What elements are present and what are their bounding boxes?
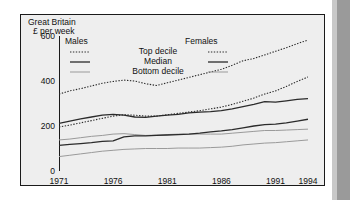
- x-axis-tick-label: 1976: [98, 176, 128, 186]
- legend-key-females: [207, 67, 229, 76]
- y-axis-tick-label: 400: [29, 76, 55, 86]
- right-edge-band: [337, 0, 350, 200]
- y-axis-tick-label: 0: [29, 166, 55, 176]
- x-axis-tick-label: 1986: [206, 176, 236, 186]
- x-axis-tick-label: 1994: [293, 176, 323, 186]
- legend-group-females: Females: [185, 36, 218, 46]
- legend-group-males: Males: [65, 36, 88, 46]
- y-axis-tick-label: 600: [29, 31, 55, 41]
- x-axis-tick-label: 1991: [261, 176, 291, 186]
- legend-key-males: [69, 67, 91, 76]
- x-axis-tick-label: 1971: [44, 176, 74, 186]
- legend-label: Median: [115, 56, 201, 66]
- legend-key-males: [69, 57, 91, 66]
- legend-key-males: [69, 47, 91, 56]
- chart-figure: Great Britain £ per week 0200400600 1971…: [20, 14, 325, 186]
- legend-label: Top decile: [115, 46, 201, 56]
- legend-key-females: [207, 47, 229, 56]
- screenshot-root: Great Britain £ per week 0200400600 1971…: [0, 0, 350, 200]
- legend-key-females: [207, 57, 229, 66]
- legend-row: Bottom decile: [63, 67, 253, 77]
- x-axis-tick-label: 1981: [152, 176, 182, 186]
- series-line: [59, 119, 308, 145]
- y-axis-tick-label: 200: [29, 121, 55, 131]
- legend-label: Bottom decile: [115, 66, 201, 76]
